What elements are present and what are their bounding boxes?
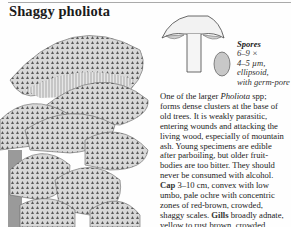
description-text: One of the larger Pholiota spp; forms de… [160, 92, 291, 227]
cross-section-diagram [158, 12, 233, 78]
spores-info: Spores 6–9 × 4–5 µm, ellipsoid, with ger… [237, 40, 290, 87]
text-line: yellow to rust brown, crowded. [160, 221, 291, 227]
page-title: Shaggy pholiota [9, 3, 110, 20]
spore-icon [214, 52, 230, 76]
spores-line: with germ-pore [237, 77, 290, 87]
mushroom-cluster-illustration [0, 20, 155, 227]
